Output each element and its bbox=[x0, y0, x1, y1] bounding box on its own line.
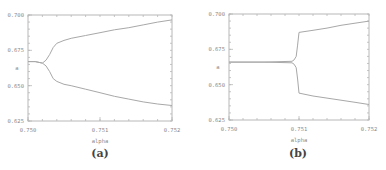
data-series-line bbox=[28, 62, 172, 106]
x-axis-label: alpha bbox=[291, 137, 308, 144]
y-tick-label: 0.650 bbox=[7, 83, 24, 89]
x-axis-label: alpha bbox=[92, 138, 109, 145]
x-tick-label: 0.751 bbox=[291, 126, 308, 132]
y-axis-label: a bbox=[216, 64, 219, 70]
chart-a-svg: 0.7500.7510.7520.6250.6500.6750.700alpha… bbox=[0, 0, 193, 170]
y-tick-label: 0.625 bbox=[208, 117, 225, 123]
x-tick-label: 0.750 bbox=[221, 126, 238, 132]
x-tick-label: 0.752 bbox=[361, 126, 378, 132]
y-tick-label: 0.675 bbox=[7, 47, 24, 53]
y-tick-label: 0.625 bbox=[7, 118, 24, 124]
y-tick-label: 0.650 bbox=[208, 82, 225, 88]
data-series-line bbox=[28, 20, 172, 63]
x-tick-label: 0.752 bbox=[164, 127, 181, 133]
x-tick-label: 0.751 bbox=[92, 127, 109, 133]
panel-a: 0.7500.7510.7520.6250.6500.6750.700alpha… bbox=[0, 0, 193, 170]
panel-b: 0.7500.7510.7520.6250.6500.6750.700alpha… bbox=[193, 0, 386, 170]
data-series-line bbox=[229, 21, 369, 62]
y-tick-label: 0.675 bbox=[208, 46, 225, 52]
y-axis-label: a bbox=[15, 65, 18, 71]
caption-a: (a) bbox=[70, 147, 130, 160]
plot-frame bbox=[28, 15, 172, 121]
x-tick-label: 0.750 bbox=[20, 127, 37, 133]
caption-b: (b) bbox=[268, 147, 328, 160]
chart-b-svg: 0.7500.7510.7520.6250.6500.6750.700alpha… bbox=[193, 0, 386, 170]
plot-frame bbox=[229, 14, 369, 120]
y-tick-label: 0.700 bbox=[208, 11, 225, 17]
data-series-line bbox=[229, 62, 369, 104]
y-tick-label: 0.700 bbox=[7, 12, 24, 18]
